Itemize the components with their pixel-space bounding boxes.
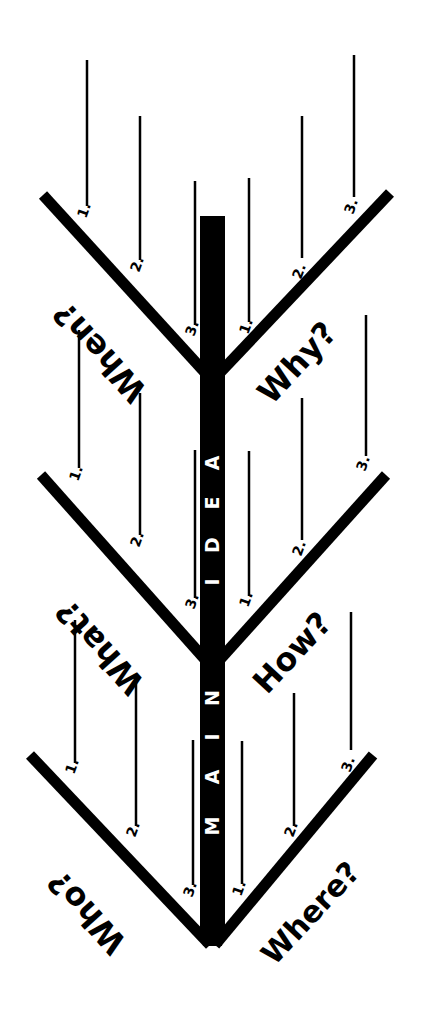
line-number: 1. [66, 463, 86, 483]
spine-letter: D [201, 537, 223, 553]
line-number: 2. [123, 819, 143, 839]
spine-letter: M [201, 817, 223, 836]
spine-letter: I [201, 733, 223, 740]
spine-letter: I [201, 578, 223, 585]
line-number: 3. [180, 879, 200, 899]
line-number: 2. [127, 254, 147, 274]
spine: A E D I N I A M [200, 216, 225, 946]
spine-letter: A [201, 455, 223, 470]
line-number: 3. [341, 196, 361, 216]
line-number: 2. [127, 529, 147, 549]
line-number: 1. [229, 878, 249, 898]
line-number: 1. [74, 200, 94, 220]
line-number: 3. [182, 591, 202, 611]
line-number: 1. [62, 756, 82, 776]
branch-arm-left [30, 755, 210, 945]
spine-letter: N [201, 690, 223, 706]
line-number: 3. [353, 453, 373, 473]
branch-arm-left [43, 195, 210, 378]
line-number: 2. [289, 538, 309, 558]
line-number: 1. [236, 589, 256, 609]
line-number: 3. [182, 318, 202, 338]
question-label-when: When? [45, 295, 154, 410]
spine-letter: A [201, 769, 223, 784]
question-label-who: Who? [40, 863, 134, 962]
line-number: 2. [281, 819, 301, 839]
fishbone-diagram: A E D I N I A M 1. 2. 3. 1. 2. 3. [0, 0, 421, 1009]
spine-letter: E [201, 497, 223, 510]
